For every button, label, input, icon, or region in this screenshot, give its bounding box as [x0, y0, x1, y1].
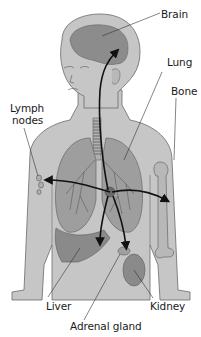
label-adrenal-gland: Adrenal gland: [70, 320, 142, 332]
label-kidney: Kidney: [150, 300, 185, 312]
label-lymph-nodes-1: Lymph: [10, 102, 44, 114]
adrenal-gland-organ: [118, 247, 130, 255]
label-lung: Lung: [167, 56, 192, 68]
label-brain: Brain: [161, 8, 188, 20]
label-liver: Liver: [46, 300, 71, 312]
label-lymph-nodes-2: nodes: [12, 114, 43, 126]
label-bone: Bone: [171, 85, 197, 97]
anatomy-diagram: [0, 0, 201, 337]
